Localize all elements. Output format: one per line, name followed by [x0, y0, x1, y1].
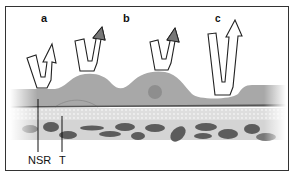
label-nsr: NSR — [28, 154, 51, 166]
label-t: T — [59, 154, 66, 166]
panel-label-b: b — [123, 12, 130, 24]
tissue-diagram — [0, 0, 295, 177]
panel-label-a: a — [41, 12, 47, 24]
panel-label-c: c — [215, 13, 221, 24]
